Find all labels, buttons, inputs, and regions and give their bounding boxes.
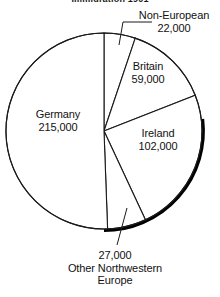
slice-label-britain: Britain 59,000 (112, 60, 184, 85)
slice-label-other-northwestern-europe: 27,000 Other Northwestern Europe (26, 249, 204, 287)
slice-label-other-name-line1: Other Northwestern (26, 262, 204, 275)
slice-label-germany-value: 215,000 (12, 121, 104, 134)
slice-label-non-european-name: Non-European (128, 9, 220, 22)
slice-label-germany: Germany 215,000 (12, 108, 104, 133)
pie-chart-figure: Immigration 1901 Germany 215,000 Britain… (0, 0, 220, 297)
slice-label-other-name-line2: Europe (26, 274, 204, 287)
slice-label-germany-name: Germany (12, 108, 104, 121)
slice-label-ireland: Ireland 102,000 (120, 127, 196, 152)
slice-label-other-value: 27,000 (26, 249, 204, 262)
slice-label-non-european: Non-European 22,000 (128, 9, 220, 34)
slice-label-non-european-value: 22,000 (128, 22, 220, 35)
slice-label-ireland-name: Ireland (120, 127, 196, 140)
slice-label-britain-name: Britain (112, 60, 184, 73)
slice-label-ireland-value: 102,000 (120, 140, 196, 153)
slice-label-britain-value: 59,000 (112, 73, 184, 86)
